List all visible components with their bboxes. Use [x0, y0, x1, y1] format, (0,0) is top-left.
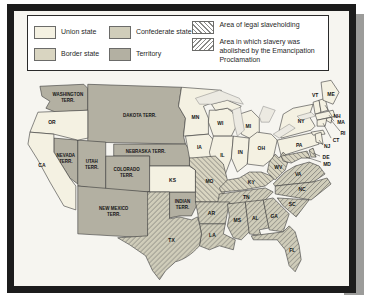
legend-item-slaveholding: Area of legal slaveholding	[192, 21, 322, 34]
legend: Union state Border state Confederate sta…	[27, 15, 329, 71]
confederate-state-swatch	[109, 26, 131, 39]
state-label-ma: MA	[337, 119, 345, 125]
legend-label: Border state	[61, 50, 99, 59]
map-figure-frame: Union state Border state Confederate sta…	[7, 4, 356, 293]
legend-label: Area in which slavery was abolished by t…	[219, 38, 322, 64]
state-label-in: IN	[238, 149, 243, 155]
state-label-ar: AR	[208, 210, 216, 216]
lake-huron	[259, 106, 275, 122]
state-label-dakota: DAKOTA TERR.	[123, 113, 156, 118]
legal-slaveholding-hatch-swatch	[192, 21, 214, 34]
emancipation-hatch-swatch	[192, 38, 214, 51]
state-label-nh: NH	[333, 113, 341, 119]
state-label-vt: VT	[312, 92, 318, 98]
state-label-colorado-1: COLORADO	[114, 167, 141, 172]
state-label-tx: TX	[168, 237, 175, 243]
legend-column-2: Confederate state Territory	[109, 21, 193, 65]
legend-label: Confederate state	[136, 28, 192, 37]
state-label-washington-2: TERR.	[61, 98, 74, 103]
state-label-fl: FL	[289, 247, 295, 253]
state-label-la: LA	[209, 232, 216, 238]
state-label-pa: PA	[296, 142, 303, 148]
state-label-or: OR	[48, 119, 56, 125]
state-label-mo: MO	[205, 178, 213, 184]
state-label-wi: WI	[217, 120, 224, 126]
legend-item-emancipation: Area in which slavery was abolished by t…	[192, 38, 322, 64]
state-label-ca: CA	[38, 162, 46, 168]
us-civil-war-map: WASHINGTON TERR. DAKOTA TERR. NEBRASKA T…	[14, 73, 349, 286]
state-label-oh: OH	[258, 145, 266, 151]
legend-label: Union state	[61, 28, 96, 37]
pointer-line-ct	[323, 123, 331, 138]
state-label-new-mexico-2: TERR.	[107, 212, 120, 217]
legend-label: Territory	[136, 50, 161, 59]
state-label-sc: SC	[289, 201, 296, 207]
state-label-al: AL	[252, 215, 259, 221]
state-label-ks: KS	[169, 177, 177, 183]
state-label-wv: WV	[274, 164, 283, 170]
state-label-nevada-2: TERR.	[59, 159, 72, 164]
page-edge-shadow-right	[356, 14, 364, 295]
state-label-ri: RI	[341, 130, 347, 136]
state-label-indian-1: INDIAN	[175, 199, 190, 204]
legend-item-confederate: Confederate state	[109, 26, 193, 39]
state-label-nevada-1: NEVADA	[57, 153, 76, 158]
page: { "legend": { "items": [ {"label": "Unio…	[0, 0, 371, 297]
state-label-utah-1: UTAH	[86, 159, 98, 164]
state-label-ms: MS	[234, 217, 242, 223]
state-label-ct: CT	[333, 137, 340, 143]
state-label-va: VA	[295, 171, 302, 177]
union-state-swatch	[34, 26, 56, 39]
legend-item-border: Border state	[34, 48, 109, 61]
legend-item-union: Union state	[34, 26, 109, 39]
state-label-indian-2: TERR.	[176, 205, 189, 210]
state-label-new-mexico-1: NEW MEXICO	[99, 206, 129, 211]
state-label-nebraska: NEBRASKA TERR.	[126, 149, 166, 154]
state-label-de: DE	[323, 154, 331, 160]
legend-column-1: Union state Border state	[34, 21, 109, 65]
pointer-line-md	[306, 157, 321, 162]
legend-label: Area of legal slaveholding	[219, 21, 299, 30]
state-label-utah-2: TERR.	[85, 165, 98, 170]
state-label-ga: GA	[270, 213, 278, 219]
state-label-md: MD	[323, 161, 331, 167]
state-label-nc: NC	[299, 186, 307, 192]
territory-swatch	[109, 48, 131, 61]
legend-column-3: Area of legal slaveholding Area in which…	[192, 21, 322, 65]
state-label-mi: MI	[246, 123, 252, 129]
state-label-mn: MN	[192, 114, 200, 120]
state-label-me: ME	[327, 91, 335, 97]
state-label-ky: KY	[248, 179, 256, 185]
lake-michigan	[232, 107, 244, 136]
state-label-tn: TN	[243, 194, 250, 200]
state-delaware	[309, 148, 316, 157]
legend-item-territory: Territory	[109, 48, 193, 61]
state-label-il: IL	[220, 152, 224, 158]
state-label-ia: IA	[197, 144, 202, 150]
state-label-nj: NJ	[324, 143, 331, 149]
state-label-washington-1: WASHINGTON	[52, 92, 83, 97]
border-state-swatch	[34, 48, 56, 61]
state-label-ny: NY	[298, 118, 306, 124]
state-label-colorado-2: TERR.	[120, 173, 133, 178]
